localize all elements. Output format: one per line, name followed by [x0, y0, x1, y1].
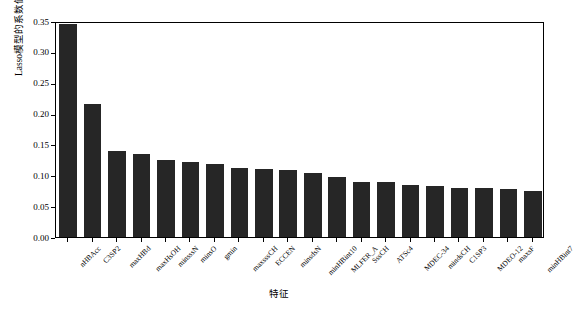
x-axis-label: 特征	[0, 288, 558, 300]
x-axis-tick-mark	[336, 238, 337, 242]
x-axis-tick-mark	[116, 238, 117, 242]
bar	[182, 162, 200, 237]
x-axis-tick-mark	[532, 238, 533, 242]
x-axis-tick-label: nHBAcc	[78, 244, 103, 269]
bar	[328, 177, 346, 237]
x-axis-tick-mark	[434, 238, 435, 242]
y-axis-tick-label: 0.15	[0, 141, 49, 150]
bar	[206, 164, 224, 237]
bar	[402, 185, 420, 237]
x-axis-tick-label: C1SP3	[468, 244, 489, 265]
bar	[377, 182, 395, 237]
x-axis-tick-label: maxHBd	[127, 244, 153, 270]
x-axis-tick-mark	[312, 238, 313, 242]
x-axis-tick-mark	[189, 238, 190, 242]
x-axis-tick-mark	[287, 238, 288, 242]
x-axis-tick-mark	[238, 238, 239, 242]
x-axis-tick-mark	[507, 238, 508, 242]
x-axis-tick-mark	[361, 238, 362, 242]
x-axis-tick-mark	[410, 238, 411, 242]
x-axis-tick-label: MDEC-34	[422, 244, 451, 273]
x-axis-tick-label: minsdsN	[298, 244, 323, 269]
bar	[84, 104, 102, 237]
plot-area	[55, 22, 544, 238]
x-axis-tick-label: gmin	[221, 244, 238, 261]
x-axis-tick-mark	[483, 238, 484, 242]
bar	[108, 151, 126, 237]
bar	[500, 189, 518, 237]
x-axis-tick-mark	[67, 238, 68, 242]
x-axis-tick-label: ATSc4	[394, 244, 415, 265]
bar	[304, 173, 322, 237]
x-axis-tick-mark	[141, 238, 142, 242]
bar	[524, 191, 542, 237]
y-axis-tick-mark	[51, 238, 55, 239]
bar	[157, 160, 175, 237]
bar	[255, 169, 273, 237]
bar	[475, 188, 493, 237]
bar	[279, 170, 297, 237]
y-axis-tick-label: 0.00	[0, 234, 49, 243]
bar-series	[56, 23, 543, 237]
bar	[426, 186, 444, 237]
bar	[231, 168, 249, 237]
bar	[353, 182, 371, 237]
x-axis-tick-label: minsO	[198, 244, 219, 265]
x-axis-tick-mark	[458, 238, 459, 242]
x-axis-tick-mark	[165, 238, 166, 242]
bar	[59, 24, 77, 237]
x-axis-tick-mark	[92, 238, 93, 242]
x-axis-tick-mark	[214, 238, 215, 242]
x-axis-tick-label: minHBint7	[545, 244, 575, 274]
x-axis-tick-mark	[385, 238, 386, 242]
y-axis-tick-label: 0.30	[0, 48, 49, 57]
y-axis-tick-label: 0.25	[0, 79, 49, 88]
x-axis-tick-label: C3SP2	[101, 244, 122, 265]
bar	[451, 188, 469, 237]
y-axis-tick-label: 0.35	[0, 18, 49, 27]
y-axis-tick-label: 0.05	[0, 203, 49, 212]
bar	[133, 154, 151, 237]
y-axis-tick-label: 0.20	[0, 110, 49, 119]
y-axis-tick-label: 0.10	[0, 172, 49, 181]
x-axis-tick-mark	[263, 238, 264, 242]
